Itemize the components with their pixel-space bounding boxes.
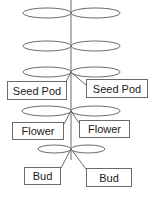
leaf-right-3 <box>71 67 120 77</box>
leaf-left-2 <box>23 41 71 51</box>
seed-pod-label-left: Seed Pod <box>7 81 67 100</box>
leaf-left-flower <box>22 106 71 116</box>
leaf-right-1 <box>71 8 120 18</box>
seed-pod-label-right: Seed Pod <box>86 79 148 98</box>
bud-label-right: Bud <box>86 168 132 187</box>
flower-label-left: Flower <box>12 122 64 140</box>
leaf-left-3 <box>23 67 71 77</box>
leaf-left-1 <box>23 8 71 18</box>
bud-label-left: Bud <box>24 167 61 185</box>
plant-stem-diagram: Seed Pod Seed Pod Flower Flower Bud Bud <box>0 0 151 198</box>
leaf-right-2 <box>71 41 120 51</box>
leaf-left-bud <box>38 145 71 153</box>
leaf-right-flower <box>71 106 120 116</box>
connector-flower-left <box>64 111 71 124</box>
flower-label-right: Flower <box>79 120 130 138</box>
connector-flower-right <box>71 111 79 123</box>
leaf-right-bud <box>71 145 105 153</box>
connector-seed-pod-right <box>71 72 86 85</box>
